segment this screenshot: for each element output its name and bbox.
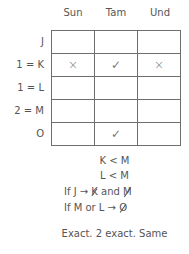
crossed-o: O — [119, 202, 127, 213]
row-label-j: J — [0, 36, 44, 47]
row-label-l: 1 = L — [0, 82, 44, 93]
grid-cell[interactable] — [52, 77, 95, 100]
grid-cell[interactable] — [95, 31, 138, 54]
table-row: ✓ — [52, 123, 181, 146]
note-if-m-or-l-prefix: If M or L → — [64, 202, 116, 213]
note-if-j: If J → K and M — [64, 186, 132, 197]
grid-cell[interactable] — [52, 123, 95, 146]
table-row — [52, 100, 181, 123]
grid-cell-x-mark[interactable]: × — [52, 54, 95, 77]
column-header-sun: Sun — [51, 7, 95, 18]
crossed-m: M — [123, 186, 132, 197]
logic-grid: × ✓ × ✓ — [51, 30, 181, 146]
table-row: × ✓ × — [52, 54, 181, 77]
table-row — [52, 31, 181, 54]
row-label-o: O — [0, 128, 44, 139]
crossed-k: K — [91, 186, 98, 197]
grid-cell-check-mark[interactable]: ✓ — [95, 54, 138, 77]
table-row — [52, 77, 181, 100]
row-label-m: 2 = M — [0, 105, 44, 116]
grid-cell-check-mark[interactable]: ✓ — [95, 123, 138, 146]
note-exact: Exact. 2 exact. Same — [0, 228, 189, 239]
column-header-und: Und — [138, 7, 182, 18]
grid-cell[interactable] — [95, 77, 138, 100]
grid-cell[interactable] — [138, 77, 181, 100]
grid-cell[interactable] — [95, 100, 138, 123]
column-header-tam: Tam — [94, 7, 138, 18]
note-if-m-or-l: If M or L → O — [64, 202, 127, 213]
note-l-less-m: L < M — [0, 170, 189, 181]
note-if-j-prefix: If J → — [64, 186, 88, 197]
grid-cell-x-mark[interactable]: × — [138, 54, 181, 77]
grid-cell[interactable] — [138, 123, 181, 146]
grid-cell[interactable] — [138, 100, 181, 123]
grid-cell[interactable] — [52, 31, 95, 54]
note-k-less-m: K < M — [0, 155, 189, 166]
grid-cell[interactable] — [138, 31, 181, 54]
note-and: and — [101, 186, 120, 197]
grid-cell[interactable] — [52, 100, 95, 123]
row-label-k: 1 = K — [0, 59, 44, 70]
